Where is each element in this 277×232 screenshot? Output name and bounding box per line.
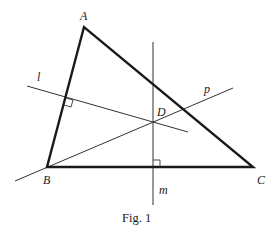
geometry-diagram: A B C D l p m Fig. 1 bbox=[0, 0, 277, 232]
triangle-abc bbox=[47, 27, 253, 167]
figure: A B C D l p m Fig. 1 bbox=[0, 0, 277, 232]
label-p: p bbox=[203, 82, 210, 96]
label-c: C bbox=[257, 173, 266, 187]
label-d: D bbox=[156, 105, 166, 119]
label-b: B bbox=[43, 173, 51, 187]
figure-caption: Fig. 1 bbox=[122, 211, 151, 225]
label-l: l bbox=[37, 70, 41, 84]
label-a: A bbox=[79, 9, 88, 23]
label-m: m bbox=[159, 183, 168, 197]
